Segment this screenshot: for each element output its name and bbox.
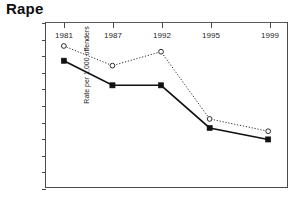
y-tick-mark xyxy=(42,189,46,190)
data-point-marker xyxy=(61,58,66,63)
chart-figure: Rape Rate per 1,000 offenders 2001801601… xyxy=(0,0,299,212)
data-point-marker xyxy=(266,137,271,142)
series-line-filled-square xyxy=(64,61,268,140)
data-point-marker xyxy=(159,49,164,54)
data-point-marker xyxy=(207,117,212,122)
series-line-open-circle xyxy=(64,46,268,131)
data-point-marker xyxy=(110,63,115,68)
data-point-marker xyxy=(61,44,66,49)
data-point-marker xyxy=(110,83,115,88)
plot-area: Rate per 1,000 offenders 200180160140120… xyxy=(45,22,288,188)
series-layer xyxy=(46,23,287,187)
data-point-marker xyxy=(207,125,212,130)
data-point-marker xyxy=(266,129,271,134)
chart-title: Rape xyxy=(6,0,43,18)
data-point-marker xyxy=(158,83,163,88)
